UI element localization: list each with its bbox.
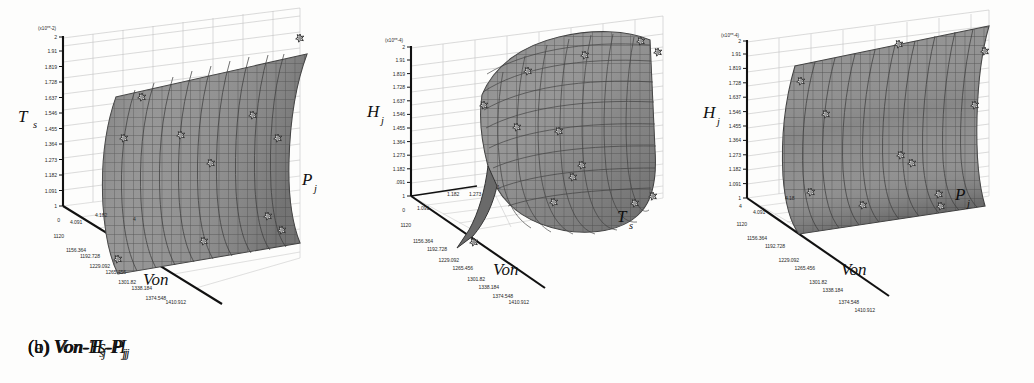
svg-text:1.273: 1.273	[729, 152, 742, 158]
svg-text:1.: 1.	[497, 184, 501, 190]
svg-text:Von: Von	[493, 260, 519, 279]
svg-text:1.819: 1.819	[392, 71, 405, 77]
svg-text:1120: 1120	[737, 221, 748, 227]
svg-text:4.091: 4.091	[70, 219, 83, 225]
figure-panel-row: (x10**-2) 2 1.91 1.819 1.728 1.637 1.546…	[0, 0, 1034, 383]
svg-text:1192.728: 1192.728	[765, 243, 785, 249]
svg-text:1301.82: 1301.82	[810, 279, 828, 285]
axis-label-von-c: Von	[841, 260, 867, 279]
svg-text:1229.092: 1229.092	[779, 257, 800, 263]
svg-text:P: P	[954, 185, 965, 204]
svg-text:2: 2	[402, 44, 405, 50]
svg-text:4: 4	[133, 216, 136, 222]
svg-text:Von: Von	[841, 260, 867, 279]
axis-exponent-hj-b: (x10**-4)	[385, 38, 404, 43]
svg-text:1120: 1120	[53, 233, 64, 239]
caption-c-term-p: P	[112, 336, 124, 357]
plot-c-surface: (x10**-4) 2 1.91 1.819 1.728 1.637 1.546…	[689, 0, 1034, 320]
svg-text:1.91: 1.91	[395, 57, 405, 63]
axis-label-von-b: Von	[493, 260, 519, 279]
panel-a: (x10**-2) 2 1.91 1.819 1.728 1.637 1.546…	[0, 0, 345, 383]
axis-label-ts-a: T s	[18, 107, 37, 130]
svg-text:1.546: 1.546	[729, 109, 742, 115]
svg-text:4: 4	[739, 203, 742, 209]
svg-text:1.91: 1.91	[47, 48, 57, 54]
svg-text:2: 2	[739, 38, 742, 44]
svg-text:j: j	[715, 116, 720, 127]
svg-text:1.637: 1.637	[392, 98, 405, 104]
caption-c-term-von: Von	[54, 336, 83, 357]
svg-text:0: 0	[402, 207, 405, 213]
svg-text:j: j	[379, 115, 384, 126]
svg-text:1.455: 1.455	[392, 125, 405, 131]
caption-panel-c: (c) Von-Hj-Pj	[28, 336, 128, 361]
svg-text:2: 2	[54, 34, 57, 40]
svg-text:1338.184: 1338.184	[478, 284, 499, 290]
svg-text:4.182: 4.182	[95, 212, 108, 218]
svg-text:1.364: 1.364	[392, 139, 405, 145]
svg-text:1192.728: 1192.728	[80, 253, 100, 259]
svg-text:1: 1	[54, 203, 57, 209]
svg-text:1410.912: 1410.912	[508, 299, 529, 305]
svg-text:s: s	[33, 119, 37, 130]
svg-text:4.18: 4.18	[785, 195, 795, 201]
panel-c: (x10**-4) 2 1.91 1.819 1.728 1.637 1.546…	[689, 0, 1034, 383]
tick-labels-von-b: 0 1120 1156.364 1192.728 1229.092 1265.4…	[400, 207, 529, 305]
svg-text:1.182: 1.182	[729, 166, 742, 172]
svg-text:1.455: 1.455	[729, 123, 742, 129]
svg-text:1: 1	[739, 195, 742, 201]
axis-exponent-ts-a: (x10**-2)	[38, 26, 57, 31]
svg-text:j: j	[312, 183, 317, 194]
axis-label-hj-c: H j	[702, 103, 720, 127]
svg-text:1156.364: 1156.364	[413, 238, 433, 244]
tick-labels-hj-b: 2 1.91 1.819 1.728 1.637 1.546 1.455 1.3…	[392, 44, 405, 199]
tick-labels-hj-c: 2 1.91 1.819 1.728 1.637 1.546 1.455 1.3…	[729, 38, 742, 201]
svg-text:1.455: 1.455	[45, 126, 58, 132]
svg-text:1410.912: 1410.912	[166, 299, 187, 305]
svg-text:Von: Von	[143, 270, 169, 289]
svg-text:1374.548: 1374.548	[146, 295, 167, 301]
svg-text:1.091: 1.091	[417, 205, 430, 211]
svg-text:4.091: 4.091	[753, 209, 766, 215]
tick-labels-ts-a: 2 1.91 1.819 1.728 1.637 1.546 1.455 1.3…	[45, 34, 58, 209]
axis-label-pj-a: P j	[301, 170, 317, 194]
svg-text:1265.456: 1265.456	[106, 269, 127, 275]
axis-label-von-a: Von	[143, 270, 169, 289]
svg-text:1410.912: 1410.912	[855, 307, 876, 313]
svg-text:1.273: 1.273	[45, 157, 58, 163]
svg-text:s: s	[629, 220, 633, 231]
caption-c-term-p-sub: j	[124, 345, 128, 360]
panel-b: (x10**-4) 2 1.91 1.819 1.728 1.637 1.546…	[345, 0, 690, 383]
axis-exponent-hj-c: (x10**-4)	[721, 33, 740, 38]
svg-text:1.273: 1.273	[469, 191, 482, 197]
svg-text:1.728: 1.728	[392, 84, 405, 90]
svg-text:.091: .091	[395, 179, 405, 185]
svg-text:1229.092: 1229.092	[438, 257, 459, 263]
svg-text:1.364: 1.364	[45, 141, 58, 147]
svg-text:1.364: 1.364	[729, 137, 742, 143]
svg-text:1.182: 1.182	[392, 166, 405, 172]
svg-text:1.091: 1.091	[45, 188, 58, 194]
svg-text:T: T	[617, 207, 628, 226]
axis-label-hj-b: H j	[366, 102, 384, 126]
svg-text:P: P	[301, 170, 312, 189]
svg-text:1.728: 1.728	[45, 79, 58, 85]
svg-text:1.182: 1.182	[447, 191, 460, 197]
svg-text:1265.456: 1265.456	[795, 265, 816, 271]
svg-text:1120: 1120	[400, 222, 411, 228]
svg-text:1156.364: 1156.364	[747, 235, 767, 241]
plot-b-surface: (x10**-4) 2 1.91 1.819 1.728 1.637 1.546…	[345, 0, 690, 320]
svg-text:1.546: 1.546	[392, 111, 405, 117]
svg-text:0: 0	[57, 217, 60, 223]
svg-text:H: H	[366, 102, 381, 121]
plot-a-surface: (x10**-2) 2 1.91 1.819 1.728 1.637 1.546…	[0, 0, 345, 320]
svg-text:H: H	[702, 103, 717, 122]
svg-text:1338.184: 1338.184	[823, 287, 844, 293]
svg-text:1.091: 1.091	[729, 181, 742, 187]
svg-text:1.637: 1.637	[729, 94, 742, 100]
svg-text:1301.82: 1301.82	[467, 276, 485, 282]
svg-text:1.728: 1.728	[729, 80, 742, 86]
svg-text:1265.456: 1265.456	[452, 265, 473, 271]
caption-c-prefix: (c)	[28, 336, 49, 357]
axis-line-ts-b	[411, 186, 477, 196]
